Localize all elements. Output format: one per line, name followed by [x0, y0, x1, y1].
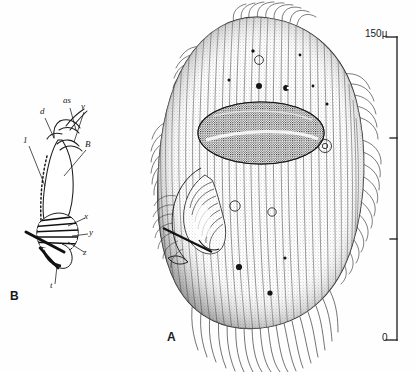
panel-b-label-as: as	[63, 96, 71, 105]
panel-b-label-b: B	[85, 140, 91, 149]
panel-b-label-x: x	[84, 212, 88, 221]
panel-b-label-v: v	[81, 102, 85, 111]
scale-bar-top-label: 150µ	[365, 29, 387, 39]
figure-plate: A B d as v 1 B x y z t 150µ 0	[0, 0, 417, 372]
panel-label-b: B	[10, 290, 19, 302]
panel-b-label-t: t	[50, 281, 53, 290]
panel-b-label-1: 1	[23, 136, 28, 145]
scale-bar-bottom-label: 0	[382, 333, 388, 343]
panel-b-label-d: d	[40, 107, 45, 116]
panel-b-label-y: y	[89, 228, 93, 237]
scale-bar-drawing	[0, 0, 417, 372]
panel-b-label-z: z	[83, 248, 87, 257]
panel-label-a: A	[167, 331, 176, 343]
